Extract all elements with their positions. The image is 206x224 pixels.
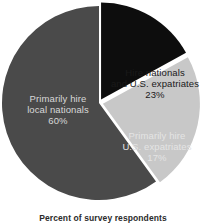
- slice-label-primarily-hire-us-expatriates: Primarily hire U.S. expatriates 17%: [110, 130, 204, 164]
- slice-label-line-1: Primarily hire: [12, 93, 104, 104]
- chart-caption: Percent of survey respondents: [0, 213, 206, 224]
- slice-label-line-2: U.S. expatriates: [110, 141, 204, 152]
- pie-chart-figure: Primarily hire local nationals 60% Hire …: [0, 0, 206, 224]
- slice-label-line-1: Primarily hire: [110, 130, 204, 141]
- slice-value-label: 17%: [110, 152, 204, 163]
- slice-value-label: 23%: [106, 89, 204, 100]
- slice-label-line-2: local nationals: [12, 104, 104, 115]
- slice-value-label: 60%: [12, 115, 104, 126]
- slice-label-hire-nationals-and-us-expatriates: Hire nationals and U.S. expatriates 23%: [106, 67, 204, 101]
- slice-label-primarily-hire-local-nationals: Primarily hire local nationals 60%: [12, 93, 104, 127]
- slice-label-line-1: Hire nationals: [106, 67, 204, 78]
- slice-label-line-2: and U.S. expatriates: [106, 78, 204, 89]
